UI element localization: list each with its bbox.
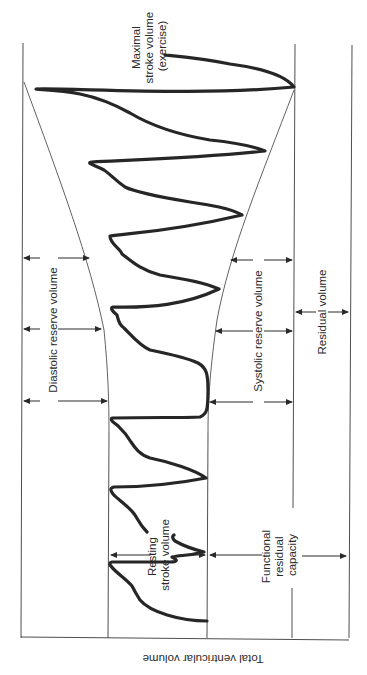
baseline [21, 637, 349, 640]
systolic-reserve-arrows [210, 260, 292, 402]
residual-volume-line-upper [293, 44, 295, 508]
diastolic-envelope [24, 82, 109, 432]
ventricular-volume-diagram: Diastolic reserve volume Systolic reserv… [0, 0, 367, 675]
resting-stroke-volume-label: Resting stroke volume [146, 519, 171, 591]
maximal-stroke-volume-label: Maximal stroke volume (exercise) [130, 9, 168, 84]
total-volume-line [21, 43, 23, 638]
functional-residual-capacity-label: Functional residual capacity [260, 527, 298, 583]
residual-volume-label: Residual volume [316, 269, 328, 354]
reference-lines [21, 43, 352, 640]
end-diastolic-resting-line [108, 432, 109, 638]
systolic-reserve-volume-label: Systolic reserve volume [252, 270, 264, 391]
diastolic-reserve-volume-label: Diastolic reserve volume [47, 267, 59, 392]
diastolic-reserve-arrows [24, 258, 107, 401]
end-systolic-resting-line [207, 432, 208, 638]
axis-label-total-ventricular-volume: Total ventricular volume [143, 653, 264, 665]
zero-volume-line [349, 45, 352, 638]
